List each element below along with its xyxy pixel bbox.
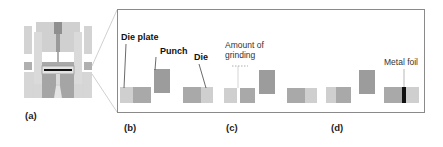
metal-foil-leader-line xyxy=(0,0,443,147)
panel-label-d: (d) xyxy=(331,122,343,133)
